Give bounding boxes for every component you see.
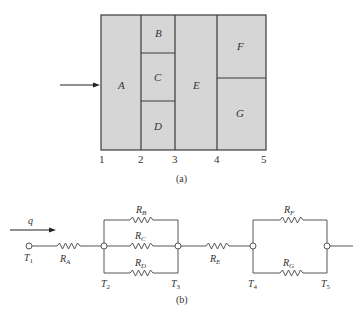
node-label-t1: T1 [24, 252, 34, 265]
resistor-label-ra: RA [59, 253, 71, 266]
region-label-b: B [155, 27, 162, 39]
node-t4 [250, 243, 256, 249]
figure-canvas: A B C D E F G 1 2 3 4 5 (a) [0, 0, 353, 310]
tick-label-4: 4 [214, 153, 220, 165]
resistor-rb [130, 217, 153, 223]
resistor-rd [130, 270, 153, 276]
region-label-g: G [236, 107, 244, 119]
node-label-t2: T2 [101, 278, 111, 291]
resistor-label-rf: RF [283, 204, 295, 217]
composite-wall-diagram: A B C D E F G 1 2 3 4 5 (a) [60, 15, 267, 185]
caption-b: (b) [176, 294, 188, 306]
tick-label-3: 3 [172, 153, 178, 165]
arrow-head-icon [49, 228, 56, 233]
tick-label-5: 5 [261, 153, 267, 165]
tick-label-1: 1 [99, 153, 105, 165]
node-t2 [101, 243, 107, 249]
node-label-t4: T4 [248, 278, 258, 291]
node-t5 [324, 243, 330, 249]
circuit-labels: q T1 T2 T3 T4 T5 RA RB RC RD RE RF RG (b… [24, 204, 331, 306]
thermal-circuit-diagram [10, 217, 353, 276]
node-label-t3: T3 [171, 278, 181, 291]
resistor-label-rc: RC [134, 230, 146, 243]
tick-label-2: 2 [138, 153, 144, 165]
wall-outline [101, 15, 266, 150]
resistor-ra [57, 243, 80, 249]
node-t3 [175, 243, 181, 249]
resistor-re [206, 243, 229, 249]
region-label-e: E [192, 79, 200, 91]
region-label-a: A [117, 79, 125, 91]
resistor-rc [130, 243, 153, 249]
resistor-label-rb: RB [135, 204, 147, 217]
resistor-label-re: RE [209, 253, 221, 266]
node-label-t5: T5 [321, 278, 331, 291]
caption-a: (a) [176, 173, 187, 185]
node-t1 [26, 243, 32, 249]
region-label-d: D [153, 120, 162, 132]
resistor-rg [280, 270, 303, 276]
region-label-f: F [236, 40, 244, 52]
resistor-rf [280, 217, 303, 223]
flow-label-q: q [28, 215, 33, 226]
resistor-label-rg: RG [282, 257, 294, 270]
resistor-label-rd: RD [134, 257, 146, 270]
region-label-c: C [154, 71, 162, 83]
arrow-head-icon [93, 83, 100, 88]
